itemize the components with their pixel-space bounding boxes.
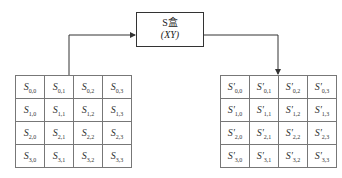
cell-symbol: S′ (315, 127, 322, 138)
matrix-cell: S2,3 (103, 122, 132, 145)
input-arrow (69, 35, 135, 75)
output-state-matrix: S′0,0S′0,1S′0,2S′0,3S′1,0S′1,1S′1,2S′1,3… (220, 75, 337, 168)
matrix-cell: S0,2 (74, 76, 103, 99)
output-arrow (204, 35, 278, 74)
matrix-cell: S1,1 (45, 99, 74, 122)
cell-symbol: S′ (315, 81, 322, 92)
cell-index: 0,0 (235, 88, 243, 94)
cell-index: 1,3 (322, 111, 330, 117)
matrix-cell: S3,2 (74, 145, 103, 168)
cell-index: 1,3 (116, 111, 124, 117)
matrix-cell: S′3,3 (308, 145, 337, 168)
cell-symbol: S′ (257, 104, 264, 115)
cell-index: 2,0 (235, 134, 243, 140)
cell-symbol: S′ (228, 127, 235, 138)
cell-symbol: S′ (286, 150, 293, 161)
cell-symbol: S′ (315, 104, 322, 115)
cell-index: 0,1 (264, 88, 272, 94)
matrix-cell: S′2,2 (279, 122, 308, 145)
matrix-row: S′1,0S′1,1S′1,2S′1,3 (221, 99, 337, 122)
matrix-row: S3,0S3,1S3,2S3,3 (16, 145, 132, 168)
cell-index: 3,1 (264, 157, 272, 163)
matrix-cell: S3,3 (103, 145, 132, 168)
cell-symbol: S′ (286, 127, 293, 138)
matrix-cell: S′2,0 (221, 122, 250, 145)
cell-symbol: S′ (257, 150, 264, 161)
matrix-cell: S′0,0 (221, 76, 250, 99)
matrix-cell: S0,3 (103, 76, 132, 99)
cell-index: 2,3 (322, 134, 330, 140)
matrix-cell: S′1,3 (308, 99, 337, 122)
cell-index: 3,3 (322, 157, 330, 163)
sbox-block: S盒 (XY) (136, 12, 204, 47)
cell-index: 0,3 (322, 88, 330, 94)
matrix-row: S2,0S2,1S2,2S2,3 (16, 122, 132, 145)
cell-symbol: S′ (228, 150, 235, 161)
cell-index: 1,1 (58, 111, 66, 117)
cell-index: 2,3 (116, 134, 124, 140)
cell-symbol: S′ (228, 81, 235, 92)
matrix-cell: S′3,2 (279, 145, 308, 168)
cell-index: 0,2 (293, 88, 301, 94)
matrix-cell: S′3,0 (221, 145, 250, 168)
matrix-row: S′3,0S′3,1S′3,2S′3,3 (221, 145, 337, 168)
cell-index: 3,3 (116, 157, 124, 163)
matrix-cell: S0,1 (45, 76, 74, 99)
matrix-row: S′2,0S′2,1S′2,2S′2,3 (221, 122, 337, 145)
cell-index: 3,0 (29, 157, 37, 163)
cell-index: 1,2 (87, 111, 95, 117)
matrix-cell: S1,3 (103, 99, 132, 122)
cell-index: 2,2 (87, 134, 95, 140)
matrix-row: S1,0S1,1S1,2S1,3 (16, 99, 132, 122)
matrix-cell: S′2,3 (308, 122, 337, 145)
cell-index: 3,1 (58, 157, 66, 163)
cell-index: 3,2 (293, 157, 301, 163)
cell-index: 2,1 (58, 134, 66, 140)
cell-symbol: S′ (228, 104, 235, 115)
matrix-cell: S′3,1 (250, 145, 279, 168)
matrix-cell: S′0,2 (279, 76, 308, 99)
cell-symbol: S′ (257, 127, 264, 138)
cell-index: 0,2 (87, 88, 95, 94)
cell-index: 0,0 (29, 88, 37, 94)
cell-index: 0,3 (116, 88, 124, 94)
matrix-row: S0,0S0,1S0,2S0,3 (16, 76, 132, 99)
matrix-cell: S2,1 (45, 122, 74, 145)
cell-index: 3,0 (235, 157, 243, 163)
matrix-row: S′0,0S′0,1S′0,2S′0,3 (221, 76, 337, 99)
sbox-label: S盒 (137, 17, 203, 29)
matrix-cell: S0,0 (16, 76, 45, 99)
matrix-cell: S′0,3 (308, 76, 337, 99)
cell-index: 1,1 (264, 111, 272, 117)
matrix-cell: S3,0 (16, 145, 45, 168)
matrix-cell: S1,2 (74, 99, 103, 122)
matrix-cell: S2,2 (74, 122, 103, 145)
matrix-cell: S′1,0 (221, 99, 250, 122)
cell-symbol: S′ (257, 81, 264, 92)
cell-index: 1,0 (29, 111, 37, 117)
cell-index: 2,2 (293, 134, 301, 140)
matrix-cell: S2,0 (16, 122, 45, 145)
cell-index: 2,0 (29, 134, 37, 140)
input-state-matrix: S0,0S0,1S0,2S0,3S1,0S1,1S1,2S1,3S2,0S2,1… (15, 75, 132, 168)
matrix-cell: S′1,2 (279, 99, 308, 122)
matrix-cell: S′2,1 (250, 122, 279, 145)
sbox-subtitle: (XY) (137, 29, 203, 41)
matrix-cell: S′1,1 (250, 99, 279, 122)
cell-symbol: S′ (315, 150, 322, 161)
cell-index: 0,1 (58, 88, 66, 94)
cell-symbol: S′ (286, 81, 293, 92)
cell-index: 2,1 (264, 134, 272, 140)
matrix-cell: S3,1 (45, 145, 74, 168)
cell-index: 1,2 (293, 111, 301, 117)
cell-symbol: S′ (286, 104, 293, 115)
cell-index: 3,2 (87, 157, 95, 163)
matrix-cell: S′0,1 (250, 76, 279, 99)
matrix-cell: S1,0 (16, 99, 45, 122)
cell-index: 1,0 (235, 111, 243, 117)
